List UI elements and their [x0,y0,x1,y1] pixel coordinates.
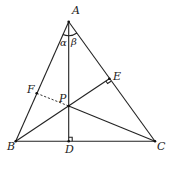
point-a [67,20,70,23]
label-e: E [112,70,121,83]
right-angle-mark-e [106,81,111,84]
label-f: F [26,83,35,96]
label-b: B [6,140,15,153]
point-e [108,77,111,80]
triangle-diagram: A B C D E F P α β [0,0,176,174]
label-p: P [58,92,67,105]
label-d: D [64,143,74,156]
point-p [67,105,70,108]
angle-arc-alpha [63,35,69,36]
label-beta: β [70,36,77,47]
label-c: C [157,140,166,153]
point-f [35,92,38,95]
point-c [154,140,157,143]
label-alpha: α [60,37,67,48]
label-a: A [71,4,80,17]
